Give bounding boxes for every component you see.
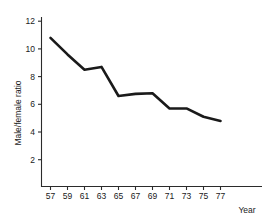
- chart-canvas: 12 10 8 6 4 2 Male/female ratio 57 59: [0, 0, 269, 224]
- y-tick-label-6: 6: [30, 99, 35, 109]
- x-tick-label-67: 67: [131, 191, 141, 201]
- x-tick-label-75: 75: [199, 191, 209, 201]
- y-tick-label-2: 2: [30, 155, 35, 165]
- y-tick-label-10: 10: [26, 44, 36, 54]
- y-tick-label-12: 12: [26, 16, 36, 26]
- line-chart: 12 10 8 6 4 2 Male/female ratio 57 59: [0, 0, 269, 224]
- x-tick-label-61: 61: [80, 191, 90, 201]
- y-axis-title: Male/female ratio: [13, 80, 23, 145]
- x-tick-label-71: 71: [165, 191, 175, 201]
- y-axis-tick-labels: 12 10 8 6 4 2: [26, 16, 36, 165]
- x-tick-label-77: 77: [216, 191, 226, 201]
- x-tick-label-59: 59: [63, 191, 73, 201]
- y-tick-label-8: 8: [30, 72, 35, 82]
- x-tick-label-73: 73: [182, 191, 192, 201]
- data-series-line: [51, 38, 221, 121]
- x-tick-label-65: 65: [114, 191, 124, 201]
- x-tick-label-69: 69: [148, 191, 158, 201]
- y-tick-label-4: 4: [30, 127, 35, 137]
- x-axis-title: Year: [238, 205, 255, 215]
- x-axis-tick-labels: 57 59 61 63 65 67 69 71 73 75 77: [46, 191, 226, 201]
- x-tick-label-57: 57: [46, 191, 56, 201]
- x-tick-label-63: 63: [97, 191, 107, 201]
